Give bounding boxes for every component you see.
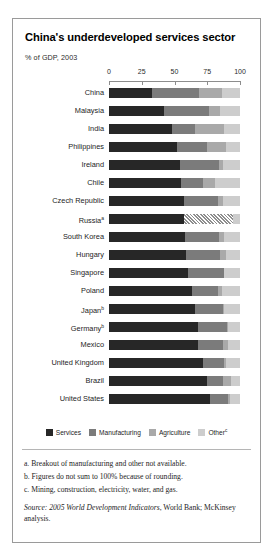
chart-subtitle: % of GDP, 2003 [25, 53, 251, 62]
bar-row-label: China [24, 87, 104, 98]
legend-label: Manufacturing [99, 429, 141, 436]
bar-row: Mexico [22, 339, 251, 357]
stacked-bar [109, 196, 240, 206]
bar-segment-services [109, 88, 152, 98]
bar-segment-agriculture [223, 376, 231, 386]
x-tick-label: 50 [171, 68, 179, 75]
stacked-bar [109, 376, 240, 386]
bar-segment-manufacturing [207, 376, 223, 386]
legend-item-agriculture: Agriculture [149, 429, 191, 436]
source-note: Source: 2005 World Development Indicator… [24, 502, 250, 525]
bar-segment-other [226, 142, 240, 152]
bar-row: Germanyb [22, 321, 251, 339]
source-title: 2005 World Development Indicators [49, 503, 159, 512]
legend-swatch-icon [149, 429, 156, 436]
exhibit-panel: China's underdeveloped services sector %… [12, 18, 261, 543]
bar-row-label: Hungary [24, 249, 104, 260]
stacked-bar [109, 304, 240, 314]
stacked-bar [109, 394, 240, 404]
bar-row-label: Mexico [24, 339, 104, 350]
bar-segment-manufacturing [177, 142, 207, 152]
bar-row-label: Malaysia [24, 105, 104, 116]
bar-segment-services [109, 358, 203, 368]
bar-segment-manufacturing [198, 340, 223, 350]
footnote-b: b. Figures do not sum to 100% because of… [24, 470, 250, 483]
source-rest: , World Bank; [160, 503, 203, 512]
legend-swatch-icon [89, 429, 96, 436]
bar-segment-manufacturing [186, 250, 220, 260]
bar-segment-manufacturing [192, 286, 218, 296]
bar-row: Malaysia [22, 105, 251, 123]
bar-row: Chile [22, 177, 251, 195]
bar-segment-manufacturing [152, 88, 199, 98]
bar-row-label: United Kingdom [24, 357, 104, 368]
x-axis: 0255075100 [22, 68, 251, 88]
footnotes: a. Breakout of manufacturing and other n… [24, 457, 250, 524]
bar-segment-services [109, 322, 198, 332]
bar-segment-services [109, 304, 195, 314]
bar-segment-manufacturing [164, 106, 209, 116]
source-prefix: Source: [24, 503, 47, 512]
bar-segment-other [224, 232, 240, 242]
x-tick-mark [109, 81, 110, 85]
bar-segment-manufacturing [172, 124, 196, 134]
stacked-bar [109, 106, 240, 116]
legend-label: Services [56, 429, 81, 436]
bar-segment-other [228, 322, 240, 332]
bar-segment-services [109, 124, 172, 134]
legend-swatch-icon [46, 429, 53, 436]
bar-segment-agriculture [195, 124, 224, 134]
stacked-bar [109, 160, 240, 170]
bar-segment-other [222, 286, 240, 296]
bar-segment-services [109, 196, 184, 206]
bar-segment-services [109, 160, 180, 170]
bar-row-label: Chile [24, 177, 104, 188]
bar-row: Poland [22, 285, 251, 303]
bar-segment-manufacturing [181, 178, 203, 188]
bar-segment-other [224, 268, 240, 278]
bar-row: Brazil [22, 375, 251, 393]
bar-segment-other [231, 376, 240, 386]
legend-label: Otherc [208, 428, 227, 436]
bar-row-label: Ireland [24, 159, 104, 170]
legend-item-services: Services [46, 429, 81, 436]
footnote-marker: b [101, 323, 104, 329]
divider [22, 449, 251, 450]
bar-segment-other [223, 160, 240, 170]
bar-row: Czech Republic [22, 195, 251, 213]
stacked-bar [109, 268, 240, 278]
bar-row: United States [22, 393, 251, 411]
bar-row: India [22, 123, 251, 141]
chart-plot-area: 0255075100 ChinaMalaysiaIndiaPhilippines… [22, 68, 251, 420]
x-tick-mark [142, 81, 143, 85]
bar-row-label: Poland [24, 285, 104, 296]
page-title: China's underdeveloped services sector [25, 31, 251, 44]
bar-rows: ChinaMalaysiaIndiaPhilippinesIrelandChil… [22, 87, 251, 411]
bar-segment-services [109, 268, 188, 278]
bar-row-label: Philippines [24, 141, 104, 152]
stacked-bar [109, 250, 240, 260]
legend-swatch-icon [198, 429, 205, 436]
bar-segment-agriculture [209, 106, 221, 116]
bar-segment-services [109, 286, 192, 296]
footnote-a: a. Breakout of manufacturing and other n… [24, 457, 250, 470]
footnote-c: c. Mining, construction, electricity, wa… [24, 483, 250, 496]
bar-row-label: United States [24, 393, 104, 404]
bar-row-label: Brazil [24, 375, 104, 386]
bar-row-label: South Korea [24, 231, 104, 242]
bar-row-label: Russiaa [24, 213, 104, 226]
bar-row: China [22, 87, 251, 105]
stacked-bar [109, 286, 240, 296]
footnote-marker: c [225, 428, 227, 433]
legend-item-other: Otherc [198, 428, 227, 436]
footnote-marker: b [101, 305, 104, 311]
bar-row: United Kingdom [22, 357, 251, 375]
bar-segment-unavailable [184, 214, 234, 224]
bar-segment-other [224, 124, 240, 134]
stacked-bar [109, 142, 240, 152]
x-tick-mark [175, 81, 176, 85]
bar-segment-services [109, 142, 177, 152]
bar-segment-services [109, 394, 210, 404]
bar-segment-agriculture [203, 178, 215, 188]
bar-segment-services [109, 250, 186, 260]
